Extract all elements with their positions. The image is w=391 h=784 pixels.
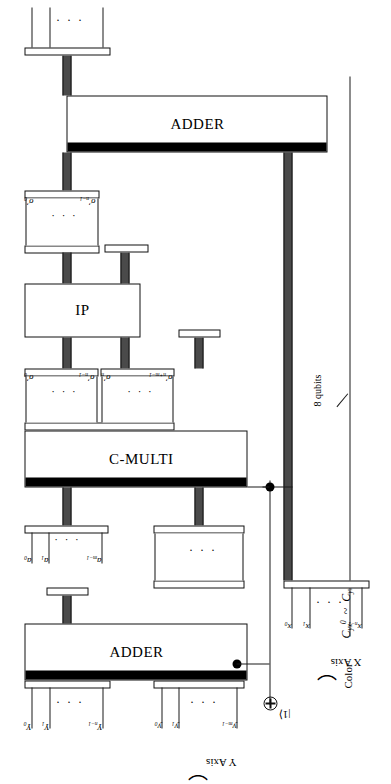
adder-bot-stub-plate <box>46 587 88 595</box>
y-axis-group-label: Y Axis <box>206 756 236 768</box>
Y-out-plate <box>24 680 110 688</box>
adder-top-to-xprime-bus <box>62 55 71 95</box>
ip-stub-plate <box>104 244 148 252</box>
sigma-lower-right-label-last: σ′n+m−1 <box>148 371 172 382</box>
qubits-tick <box>336 393 348 407</box>
sigma-lower-right-label-first: σ′n <box>101 371 110 382</box>
cmulti-stub-bus-upper <box>194 337 203 368</box>
color-annotation-rule <box>349 76 350 636</box>
ip-to-sigma-lower-left-bus <box>62 337 71 368</box>
c-multi-label: C-MULTI <box>108 450 163 467</box>
Y-regbox-ellipsis: · · · <box>189 543 217 558</box>
x-axis-bus <box>283 98 292 580</box>
Y-plate-left <box>153 580 244 588</box>
sigma-upper-to-ip-bus <box>62 252 71 283</box>
qubits-note-label: 8 qubits <box>311 374 322 406</box>
a-register-ellipsis: · · · <box>54 533 81 545</box>
sigma-upper-label-first: σ′0 <box>24 195 33 206</box>
sigma-upper-plate-left <box>24 245 99 253</box>
ip-stub-bus <box>120 252 129 283</box>
sigma-lower-plate-c <box>24 422 174 430</box>
x-axis-plate <box>283 580 369 588</box>
sigma-lower-left-label-first: σ′0 <box>24 371 33 382</box>
y-axis-label-last: ym−1 <box>221 720 236 731</box>
adder-top-label: ADDER <box>169 115 224 132</box>
x-prime-ellipsis: · · · <box>56 13 84 28</box>
sigma-upper-label-last: σ′n−1 <box>79 195 95 206</box>
y-axis-plate <box>153 680 244 688</box>
sigma-upper-ellipsis: · · · <box>51 209 78 221</box>
x-prime-plate <box>24 47 110 55</box>
adder-bottom-block[interactable]: ADDER <box>24 623 247 680</box>
Y-plate-right <box>153 525 244 533</box>
a-label-1: a1 <box>41 554 48 565</box>
x-axis-label-1: x1 <box>302 620 309 631</box>
sigma-lower-left-ellipsis: · · · <box>51 385 78 397</box>
adder-top-block[interactable]: ADDER <box>66 95 327 152</box>
Y-out-ellipsis: · · · <box>56 695 84 710</box>
c-multi-accent-bar <box>25 477 246 486</box>
adder-bottom-label: ADDER <box>108 643 163 660</box>
control-dot-cmulti-link <box>247 486 269 487</box>
x-prime-wire-last <box>102 7 103 47</box>
sigma-lower-left-label-last: σ′n−1 <box>78 371 94 382</box>
adder-bot-stub-bus <box>62 595 71 626</box>
ancilla-vertical-line <box>269 480 270 704</box>
x-prime-wire-0 <box>31 7 32 47</box>
cmulti-stub-plate-upper <box>178 329 220 337</box>
ip-to-sigma-lower-right-bus <box>120 337 129 368</box>
sigma-lower-right-ellipsis: · · · <box>127 385 154 397</box>
x-axis-label-0: x0 <box>284 620 291 631</box>
ip-label: IP <box>56 302 108 319</box>
a-register-plate <box>24 525 108 533</box>
Y-out-label-0: Y0 <box>23 720 31 731</box>
adder-top-to-sigma-bus <box>62 152 71 190</box>
x-axis-group-label: X Axis <box>330 656 361 668</box>
adder-bottom-accent-bar <box>25 670 246 679</box>
sigma-lower-regbox-left <box>25 376 97 422</box>
cnot-target-icon <box>263 696 277 710</box>
control-dot-y-link <box>236 663 269 664</box>
y-axis-label-1: y1 <box>171 720 178 731</box>
sigma-lower-regbox-right <box>101 376 173 422</box>
c-multi-block[interactable]: C-MULTI <box>24 430 247 487</box>
y-axis-ellipsis: · · · <box>190 695 218 710</box>
cmulti-to-a-bus <box>62 487 71 525</box>
y-axis-label-0: y0 <box>154 720 161 731</box>
cmulti-to-Y-bus <box>194 487 203 525</box>
x-axis-label-last: xn−1 <box>348 620 361 631</box>
Y-out-label-last: Yn−1 <box>88 720 102 731</box>
Y-out-label-1: Y1 <box>41 720 49 731</box>
ket-one-label: |1⟩ <box>278 707 290 720</box>
a-label-0: a0 <box>24 554 31 565</box>
ip-block[interactable]: IP <box>24 283 140 337</box>
x-prime-wire-1 <box>49 7 50 47</box>
a-label-last: am−1 <box>86 554 101 565</box>
x-axis-ellipsis: · · · <box>316 595 344 610</box>
adder-top-accent-bar <box>67 142 326 151</box>
